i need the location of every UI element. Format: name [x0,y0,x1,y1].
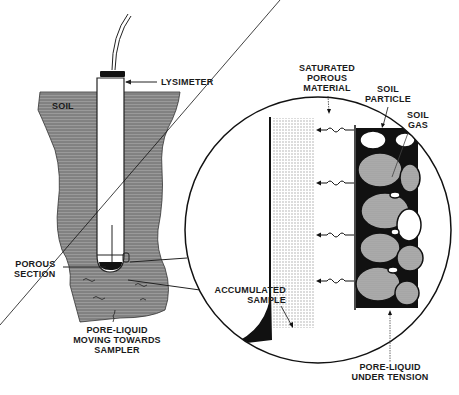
label-saturated-porous-material: SATURATED POROUS MATERIAL [290,63,364,93]
sampling-tube [112,14,128,70]
label-accumulated-sample: ACCUMULATED SAMPLE [196,285,286,305]
sampling-tube-inner [115,16,131,70]
label-soil-gas: SOIL GAS [400,110,436,130]
label-soil: SOIL [52,101,74,111]
label-lysimeter: LYSIMETER [161,77,213,87]
lysimeter-body [97,78,124,272]
label-pore-liquid-tension: PORE-LIQUID UNDER TENSION [342,362,438,382]
lysimeter-cap [100,71,125,77]
label-porous-section: POROUS SECTION [14,259,55,279]
lysimeter-arrowhead [125,80,131,85]
label-soil-particle: SOIL PARTICLE [360,84,416,104]
label-pore-liquid-moving: PORE-LIQUID MOVING TOWARDS SAMPLER [62,325,172,355]
detail-view [185,97,451,363]
